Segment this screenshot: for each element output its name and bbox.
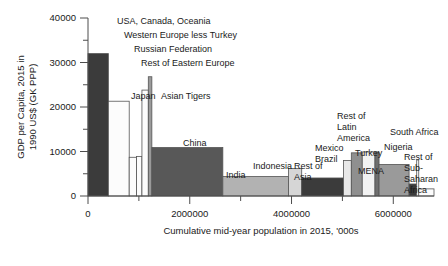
bar-label-line: Turkey bbox=[355, 148, 383, 158]
bar-label-line: MENA bbox=[358, 166, 384, 176]
bar-label-line: Rest of bbox=[404, 152, 433, 162]
bar-label-russian-federation: Russian Federation bbox=[134, 44, 212, 54]
y-tick-label: 0 bbox=[71, 190, 76, 201]
bar-label-line: Asia bbox=[294, 172, 312, 182]
x-tick-label: 6000000 bbox=[375, 208, 412, 219]
y-tick-label: 40000 bbox=[50, 12, 76, 23]
bar-label-line: USA, Canada, Oceania bbox=[117, 16, 211, 26]
y-tick-label: 20000 bbox=[50, 101, 76, 112]
bar-mexico bbox=[343, 160, 351, 196]
bar-label-line: Mexico bbox=[315, 143, 344, 153]
bar-label-line: China bbox=[183, 138, 207, 148]
bar-label-line: Western Europe less Turkey bbox=[124, 30, 237, 40]
bar-china bbox=[152, 148, 223, 197]
bar-label-japan: Japan bbox=[131, 91, 156, 101]
y-tick-label: 10000 bbox=[50, 146, 76, 157]
bar-label-line: South Africa bbox=[390, 127, 439, 137]
bar-label-line: America bbox=[337, 133, 370, 143]
x-axis: 0200000040000006000000 bbox=[85, 196, 434, 219]
bar-label-nigeria: Nigeria bbox=[384, 142, 413, 152]
bar-label-line: India bbox=[226, 170, 246, 180]
y-tick-label: 30000 bbox=[50, 57, 76, 68]
bar-label-indonesia: Indonesia bbox=[253, 161, 292, 171]
bar-label-asian-tigers: Asian Tigers bbox=[161, 91, 211, 101]
x-tick-label: 2000000 bbox=[171, 208, 208, 219]
bar-label-line: Asian Tigers bbox=[161, 91, 211, 101]
bar-label-line: Rest of Eastern Europe bbox=[141, 58, 235, 68]
bar-label-line: Sub- bbox=[404, 163, 423, 173]
y-axis: 010000200003000040000 bbox=[50, 12, 88, 201]
bar-label-usa-canada-oceania: USA, Canada, Oceania bbox=[117, 16, 211, 26]
y-axis-title-line: 1990 US$ (GK PPP) bbox=[27, 64, 38, 151]
chart-container: 0100002000030000400000200000040000006000… bbox=[0, 0, 448, 266]
bar-label-rest-of-latin-america: Rest ofLatinAmerica bbox=[337, 111, 370, 143]
bar-label-south-africa: South Africa bbox=[390, 127, 439, 137]
y-axis-title-line: GDP per Capita, 2015 in bbox=[15, 55, 26, 158]
y-axis-title: GDP per Capita, 2015 in1990 US$ (GK PPP) bbox=[15, 55, 38, 158]
bar-usa-canada-oceania bbox=[88, 54, 108, 196]
bar-label-line: Indonesia bbox=[253, 161, 292, 171]
bar-label-line: Saharan bbox=[404, 174, 438, 184]
bar-label-mena: MENA bbox=[358, 166, 384, 176]
bar-japan bbox=[142, 90, 148, 196]
bar-label-rest-of-eastern-europe: Rest of Eastern Europe bbox=[141, 58, 235, 68]
bar-label-line: Japan bbox=[131, 91, 156, 101]
bar-russian-federation bbox=[129, 157, 136, 196]
bar-label-line: Brazil bbox=[315, 154, 338, 164]
bar-label-line: Rest of bbox=[337, 111, 366, 121]
bar-label-western-europe-less-turkey: Western Europe less Turkey bbox=[124, 30, 237, 40]
bar-label-line: Russian Federation bbox=[134, 44, 212, 54]
bar-label-line: Latin bbox=[337, 122, 357, 132]
bar-label-china: China bbox=[183, 138, 207, 148]
variable-width-bar-chart: 0100002000030000400000200000040000006000… bbox=[0, 0, 448, 266]
bar-label-turkey: Turkey bbox=[355, 148, 383, 158]
bar-rest-of-eastern-europe bbox=[137, 156, 142, 196]
bar-label-india: India bbox=[226, 170, 246, 180]
bar-label-line: Nigeria bbox=[384, 142, 413, 152]
bar-label-line: Africa bbox=[404, 185, 427, 195]
bar-label-mexico-brazil: MexicoBrazil bbox=[315, 143, 344, 164]
x-tick-label: 0 bbox=[85, 208, 90, 219]
bar-western-europe-less-turkey bbox=[108, 101, 129, 196]
x-tick-label: 4000000 bbox=[273, 208, 310, 219]
x-axis-title: Cumulative mid-year population in 2015, … bbox=[163, 225, 358, 236]
